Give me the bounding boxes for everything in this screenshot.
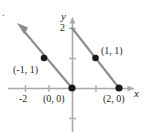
y-axis-label: y [61, 11, 66, 22]
point-label-origin: (0, 0) [43, 94, 65, 104]
y-axis-arrowhead [70, 17, 76, 24]
coordinate-graph-figure: . y x 2 -2 (-1, 1) (0, 0) (1, 1) (2, 0) [0, 0, 146, 140]
point-neg1-1 [41, 55, 48, 62]
y-tick-label-2: 2 [60, 23, 65, 33]
x-axis-label: x [134, 88, 139, 99]
x-tick-label-minus2: -2 [19, 94, 27, 104]
corner-dot-mark: . [2, 8, 5, 18]
point-label-1-1: (1, 1) [101, 46, 123, 56]
point-1-1 [92, 55, 99, 62]
point-label-2-0: (2, 0) [103, 94, 125, 104]
point-label-neg1-1: (-1, 1) [13, 65, 38, 75]
ray-left-line [23, 30, 72, 88]
point-origin [68, 84, 75, 91]
point-2-0 [115, 84, 122, 91]
